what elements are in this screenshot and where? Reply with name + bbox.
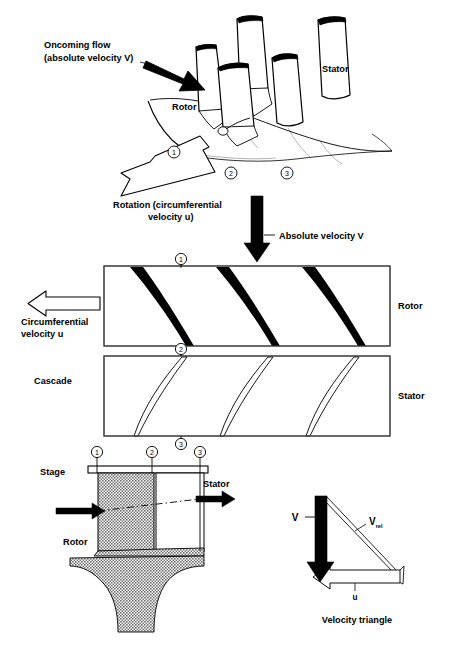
velocity-triangle-caption: Velocity triangle: [322, 615, 392, 625]
circumferential-velocity-label-line1: Circumferential: [21, 317, 88, 327]
perspective-station-3-label: 3: [285, 170, 289, 177]
cascade-rotor-label: Rotor: [398, 301, 423, 311]
v-rel-subscript: rel: [376, 523, 383, 529]
turbomachinery-stage-figure: Oncoming flow (absolute velocity V) Roto…: [0, 0, 449, 648]
stage-stator-label: Stator: [203, 479, 230, 489]
stage-stator-blade: [156, 473, 204, 551]
stage-rotor-blade: [98, 473, 154, 551]
stage-casing-bar: [88, 466, 208, 473]
stage-station-1-label: 1: [95, 449, 99, 456]
cascade-station-1-label: 1: [179, 256, 183, 263]
cascade-stator-label: Stator: [398, 391, 425, 401]
absolute-velocity-label: Absolute velocity V: [279, 231, 365, 241]
oncoming-flow-label-line2: (absolute velocity V): [44, 53, 133, 63]
cascade-label: Cascade: [34, 376, 72, 386]
stage-rotor-label: Rotor: [63, 537, 88, 547]
v-vector-label: V: [292, 512, 299, 523]
cascade-station-2-label: 2: [179, 346, 183, 353]
perspective-station-1-label: 1: [172, 149, 176, 156]
oncoming-flow-label-line1: Oncoming flow: [44, 40, 111, 50]
perspective-rotor-label: Rotor: [172, 102, 197, 112]
cascade-station-3-label: 3: [179, 441, 183, 448]
stator-cascade-box: [104, 356, 390, 436]
perspective-station-1: 1: [168, 146, 180, 158]
perspective-stator-label: Stator: [322, 64, 349, 74]
u-vector-label: u: [352, 593, 357, 602]
stage-label: Stage: [40, 467, 65, 477]
perspective-station-3: 3: [281, 167, 293, 179]
circumferential-velocity-label-line2: velocity u: [21, 329, 63, 339]
rotation-label-line2: velocity u): [148, 212, 193, 222]
stage-station-3-label: 3: [198, 449, 202, 456]
stage-station-2-label: 2: [150, 449, 154, 456]
rotor-cascade-box: [104, 266, 390, 346]
rotation-label-line1: Rotation (circumferential: [113, 200, 222, 210]
perspective-stator-blade-2: [318, 17, 350, 99]
perspective-station-2: 2: [225, 167, 237, 179]
perspective-station-2-label: 2: [229, 170, 233, 177]
perspective-stator-blade-1: [272, 54, 303, 126]
